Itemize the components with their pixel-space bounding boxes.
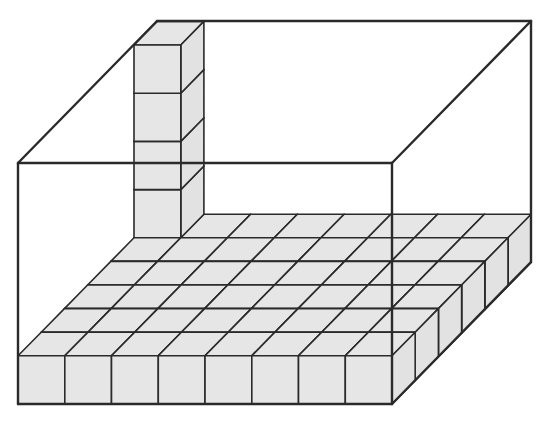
- cube-front-face: [299, 356, 346, 404]
- unit-cubes: [18, 21, 531, 404]
- cube-front-face: [134, 45, 181, 93]
- cube-front-face: [205, 356, 252, 404]
- box-with-cubes-diagram: [0, 0, 544, 423]
- cube-front-face: [158, 356, 205, 404]
- cube-front-face: [345, 356, 392, 404]
- cube-front-face: [134, 141, 181, 189]
- cube-front-face: [252, 356, 299, 404]
- cube-front-face: [65, 356, 112, 404]
- cube-front-face: [112, 356, 159, 404]
- box-right-top-edge: [392, 21, 531, 163]
- cube-front-face: [134, 93, 181, 141]
- cube-front-face: [134, 190, 181, 238]
- cube-front-face: [18, 356, 65, 404]
- diagram-canvas: [0, 0, 544, 423]
